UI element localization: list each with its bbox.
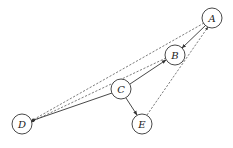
node-a: A xyxy=(202,8,222,28)
node-b: B xyxy=(165,45,185,65)
edge-c-b xyxy=(130,60,166,84)
edges xyxy=(31,23,208,122)
graph-diagram: A B C D E xyxy=(0,0,233,148)
nodes: A B C D E xyxy=(12,8,222,134)
node-c: C xyxy=(111,79,131,99)
node-label: C xyxy=(117,84,125,95)
edge-c-e xyxy=(126,98,137,115)
node-d: D xyxy=(12,114,32,134)
edge-a-b xyxy=(182,25,206,48)
edge-c-d xyxy=(31,93,112,121)
edge-b-d xyxy=(31,58,166,122)
node-e: E xyxy=(132,114,152,134)
node-label: E xyxy=(137,119,146,130)
node-label: A xyxy=(207,13,215,24)
edge-e-a xyxy=(147,27,208,115)
node-label: B xyxy=(170,50,178,61)
node-label: D xyxy=(17,119,26,130)
edge-a-d xyxy=(31,23,204,121)
